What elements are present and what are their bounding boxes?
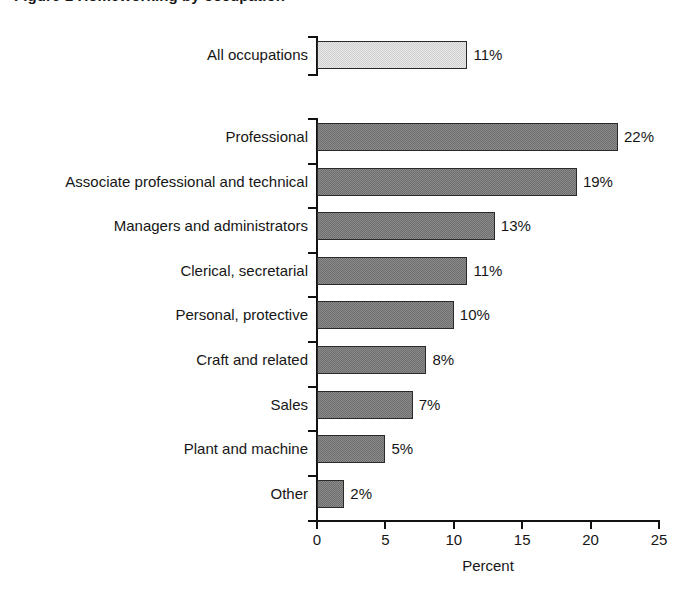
y-tick-mark <box>308 296 317 298</box>
category-label: All occupations <box>207 46 308 63</box>
bar-value-label: 13% <box>501 217 531 234</box>
bar <box>317 41 467 69</box>
category-label: Managers and administrators <box>114 217 308 234</box>
bar <box>317 212 495 240</box>
bar-value-label: 8% <box>432 351 454 368</box>
category-label: Personal, protective <box>175 306 308 323</box>
bar <box>317 391 413 419</box>
category-label: Professional <box>225 128 308 145</box>
y-tick-mark <box>308 36 317 38</box>
category-label: Clerical, secretarial <box>180 262 308 279</box>
y-tick-mark <box>308 520 317 522</box>
x-tick-mark <box>521 520 523 529</box>
y-tick-mark <box>308 163 317 165</box>
category-label: Craft and related <box>196 351 308 368</box>
x-tick-label: 20 <box>571 531 611 548</box>
x-tick-label: 10 <box>434 531 474 548</box>
category-label: Other <box>270 485 308 502</box>
x-tick-label: 5 <box>365 531 405 548</box>
bar-value-label: 22% <box>624 128 654 145</box>
x-tick-mark <box>453 520 455 529</box>
bar-value-label: 19% <box>583 173 613 190</box>
y-tick-mark <box>308 386 317 388</box>
y-tick-mark <box>308 74 317 76</box>
bar-value-label: 10% <box>460 306 490 323</box>
y-tick-mark <box>308 207 317 209</box>
category-label: Sales <box>270 396 308 413</box>
bar <box>317 480 344 508</box>
x-tick-mark <box>590 520 592 529</box>
bar <box>317 301 454 329</box>
bar <box>317 435 385 463</box>
y-tick-mark <box>308 118 317 120</box>
bar <box>317 123 618 151</box>
bar-value-label: 7% <box>419 396 441 413</box>
x-tick-label: 25 <box>639 531 679 548</box>
bar-value-label: 5% <box>391 440 413 457</box>
x-tick-mark <box>384 520 386 529</box>
x-axis-title: Percent <box>316 557 660 574</box>
bar-value-label: 11% <box>473 46 502 63</box>
bar-value-label: 11% <box>473 262 502 279</box>
bar <box>317 346 426 374</box>
y-tick-mark <box>308 252 317 254</box>
y-tick-mark <box>308 475 317 477</box>
x-tick-label: 15 <box>502 531 542 548</box>
bar-chart-figure: Figure 1 Homeworking by occupation 05101… <box>0 0 691 596</box>
x-axis-line <box>316 520 660 522</box>
x-tick-label: 0 <box>297 531 337 548</box>
bar <box>317 168 577 196</box>
bar-value-label: 2% <box>350 485 372 502</box>
y-tick-mark <box>308 341 317 343</box>
category-label: Plant and machine <box>184 440 308 457</box>
plot-area: 0510152025 11%22%19%13%11%10%8%7%5%2% Al… <box>0 0 691 596</box>
y-tick-mark <box>308 430 317 432</box>
category-label: Associate professional and technical <box>65 173 308 190</box>
bar <box>317 257 467 285</box>
x-tick-mark <box>658 520 660 529</box>
